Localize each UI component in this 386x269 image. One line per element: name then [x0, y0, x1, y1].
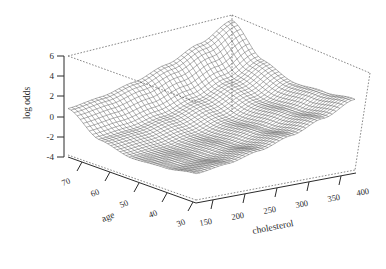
y-tick-300: 300	[294, 198, 308, 210]
surface-mesh	[68, 20, 355, 174]
x-tick-70: 70	[60, 175, 72, 187]
x-tick-60: 60	[89, 186, 101, 198]
y-axis-cholesterol	[196, 173, 356, 209]
plot-bounding-box	[68, 15, 370, 200]
z-tick-1: 4	[50, 71, 55, 81]
y-axis-title: cholesterol	[251, 218, 294, 236]
z-tick-4: -2	[47, 132, 55, 142]
x-tick-40: 40	[147, 207, 159, 219]
z-tick-labels: 6 4 2 0 -2 -4	[47, 51, 55, 162]
x-axis-age	[68, 157, 196, 211]
y-tick-150: 150	[198, 216, 212, 228]
z-axis-title: log odds	[22, 86, 32, 119]
x-tick-30: 30	[175, 216, 187, 228]
z-tick-2: 2	[50, 91, 55, 101]
x-axis-title: age	[100, 210, 116, 224]
y-tick-250: 250	[262, 204, 276, 216]
z-tick-5: -4	[47, 152, 55, 162]
surface-plot: 6 4 2 0 -2 -4 log odds 70 60 50 40 30 ag…	[0, 0, 386, 269]
figure-panel: 6 4 2 0 -2 -4 log odds 70 60 50 40 30 ag…	[0, 0, 386, 269]
z-tick-3: 0	[50, 112, 55, 122]
x-tick-50: 50	[118, 197, 130, 209]
y-tick-400: 400	[355, 186, 369, 198]
z-axis	[57, 56, 64, 157]
z-tick-0: 6	[50, 51, 55, 61]
y-tick-350: 350	[326, 192, 340, 204]
y-tick-200: 200	[230, 210, 244, 222]
x-tick-labels: 70 60 50 40 30	[60, 175, 187, 228]
